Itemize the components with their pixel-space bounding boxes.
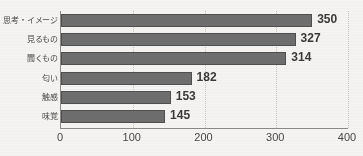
bar-row[interactable]: 145: [61, 110, 348, 123]
gridline-400: [348, 11, 349, 128]
bar[interactable]: [61, 33, 296, 46]
bar-chart-figure: 350327314182153145 思考・イメージ見るもの聞くもの匂い触感味覚…: [0, 0, 363, 156]
category-label: 匂い: [0, 72, 58, 85]
bar[interactable]: [61, 14, 312, 27]
bar-value-label: 327: [301, 32, 321, 45]
bar-row[interactable]: 314: [61, 52, 348, 65]
category-label: 味覚: [0, 110, 58, 123]
category-label: 触感: [0, 91, 58, 104]
bar[interactable]: [61, 72, 192, 85]
x-axis-line: [60, 128, 348, 129]
bar-value-label: 314: [291, 51, 311, 64]
bar-value-label: 145: [170, 109, 190, 122]
x-tick-label-100: 100: [123, 131, 141, 143]
category-label: 思考・イメージ: [0, 14, 58, 27]
x-tick-label-400: 400: [338, 131, 356, 143]
category-label: 見るもの: [0, 33, 58, 46]
bar-value-label: 182: [197, 71, 217, 84]
x-tick-label-300: 300: [266, 131, 284, 143]
bar-value-label: 350: [317, 13, 337, 26]
bar[interactable]: [61, 110, 165, 123]
bar-row[interactable]: 153: [61, 91, 348, 104]
bar[interactable]: [61, 52, 286, 65]
bar-row[interactable]: 327: [61, 33, 348, 46]
x-tick-label-0: 0: [57, 131, 63, 143]
category-label: 聞くもの: [0, 52, 58, 65]
bar-row[interactable]: 350: [61, 14, 348, 27]
plot-area: 350327314182153145: [60, 11, 347, 128]
x-tick-label-200: 200: [194, 131, 212, 143]
bar-value-label: 153: [176, 90, 196, 103]
bar[interactable]: [61, 91, 171, 104]
clipped-text-artifact: [6, 0, 346, 7]
bar-row[interactable]: 182: [61, 72, 348, 85]
